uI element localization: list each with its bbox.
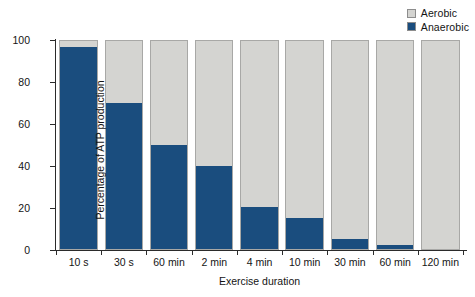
x-axis-tick — [237, 250, 238, 255]
x-axis-tick — [192, 250, 193, 255]
stacked-bar — [195, 40, 233, 250]
x-axis-line — [50, 250, 467, 251]
bar-segment-anaerobic — [151, 145, 187, 249]
x-axis-tick-label: 10 min — [282, 256, 327, 268]
bar-segment-anaerobic — [196, 166, 232, 249]
y-axis-tick-label-text: 100 — [0, 34, 30, 46]
legend-item-aerobic: Aerobic — [407, 8, 457, 19]
y-axis-tick-label: 80 — [0, 82, 46, 94]
bar-slot — [146, 40, 191, 250]
x-axis-tick — [146, 250, 147, 255]
y-axis-tick-label: 40 — [0, 166, 46, 178]
bar-segment-aerobic — [151, 41, 187, 145]
x-axis-tick — [56, 250, 57, 255]
bar-segment-aerobic — [241, 41, 277, 207]
bar-slot — [101, 40, 146, 250]
bar-segment-anaerobic — [60, 47, 96, 249]
stacked-bar — [421, 40, 459, 250]
y-axis-tick-label: 0 — [0, 250, 46, 262]
y-axis-tick-label-text: 20 — [0, 202, 30, 214]
y-axis-tick-label: 100 — [0, 40, 46, 52]
legend-label-aerobic: Aerobic — [421, 8, 457, 19]
x-axis-tick-label: 30 s — [101, 256, 146, 268]
bar-segment-anaerobic — [241, 207, 277, 249]
x-axis-tick-label: 30 min — [327, 256, 372, 268]
x-axis-tick-label: 60 min — [146, 256, 191, 268]
bar-group — [56, 40, 463, 250]
bar-slot — [282, 40, 327, 250]
legend-label-anaerobic: Anaerobic — [421, 22, 469, 33]
bar-slot — [373, 40, 418, 250]
x-axis-tick-labels: 10 s30 s60 min2 min4 min10 min30 min60 m… — [56, 256, 463, 268]
y-axis-tick-label-text: 0 — [0, 244, 30, 256]
x-axis-tick-label: 4 min — [237, 256, 282, 268]
legend-swatch-anaerobic — [407, 22, 416, 31]
x-axis-tick — [373, 250, 374, 255]
x-axis-tick-label: 120 min — [418, 256, 463, 268]
y-axis-title: Percentage of ATP production — [94, 45, 106, 255]
y-axis-tick-label-text: 60 — [0, 118, 30, 130]
stacked-bar — [105, 40, 143, 250]
bar-segment-aerobic — [196, 41, 232, 166]
bar-segment-anaerobic — [377, 245, 413, 249]
chart-legend: Aerobic Anaerobic — [407, 8, 469, 32]
y-axis-tick-label-text: 80 — [0, 76, 30, 88]
x-axis-tick — [282, 250, 283, 255]
stacked-bar — [240, 40, 278, 250]
bar-slot — [237, 40, 282, 250]
plot-area: Percentage of ATP production — [56, 40, 463, 250]
x-axis-tick — [463, 250, 464, 255]
x-axis-tick — [327, 250, 328, 255]
stacked-bar — [59, 40, 97, 250]
y-axis-tick-label-text: 40 — [0, 160, 30, 172]
bar-slot — [418, 40, 463, 250]
stacked-bar — [331, 40, 369, 250]
stacked-bar — [150, 40, 188, 250]
bar-segment-anaerobic — [332, 239, 368, 249]
x-axis-title: Exercise duration — [56, 275, 463, 287]
legend-swatch-aerobic — [407, 9, 416, 18]
x-axis-tick-label: 2 min — [192, 256, 237, 268]
y-axis-tick-label: 60 — [0, 124, 46, 136]
bar-segment-aerobic — [286, 41, 322, 218]
bar-segment-aerobic — [332, 41, 368, 239]
x-axis-tick — [418, 250, 419, 255]
bar-slot — [192, 40, 237, 250]
bar-segment-aerobic — [377, 41, 413, 245]
y-axis-tick-label: 20 — [0, 208, 46, 220]
bar-slot — [327, 40, 372, 250]
x-axis-tick-label: 10 s — [56, 256, 101, 268]
x-axis-tick-label: 60 min — [373, 256, 418, 268]
bar-segment-anaerobic — [106, 103, 142, 249]
chart-figure: Aerobic Anaerobic 020406080100 Percentag… — [0, 0, 475, 297]
stacked-bar — [376, 40, 414, 250]
bar-segment-aerobic — [106, 41, 142, 103]
bar-segment-anaerobic — [286, 218, 322, 249]
bar-segment-aerobic — [422, 41, 458, 249]
stacked-bar — [285, 40, 323, 250]
legend-item-anaerobic: Anaerobic — [407, 22, 469, 33]
